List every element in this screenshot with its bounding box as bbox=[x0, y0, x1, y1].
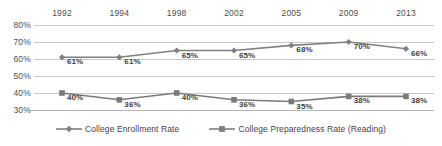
legend-item[interactable]: College Enrollment Rate bbox=[56, 124, 179, 134]
square-marker-icon bbox=[209, 124, 235, 134]
x-axis-tick-label: 2005 bbox=[281, 8, 301, 18]
x-axis-tick-label: 1998 bbox=[167, 8, 187, 18]
diamond-marker-icon bbox=[174, 47, 180, 53]
x-axis-tick-label: 1992 bbox=[52, 8, 72, 18]
diamond-marker-icon bbox=[59, 54, 65, 60]
legend-item[interactable]: College Preparedness Rate (Reading) bbox=[209, 124, 386, 134]
data-point-label: 61% bbox=[67, 57, 83, 66]
diamond-marker-icon bbox=[288, 42, 294, 48]
data-point-label: 40% bbox=[182, 93, 198, 102]
square-marker-icon bbox=[289, 99, 295, 105]
legend-label: College Preparedness Rate (Reading) bbox=[238, 124, 386, 134]
square-marker-icon bbox=[174, 90, 180, 96]
data-point-label: 36% bbox=[239, 99, 255, 108]
y-axis-tick-label: 80% bbox=[13, 20, 31, 30]
square-marker-icon bbox=[231, 97, 237, 103]
chart-legend: College Enrollment RateCollege Preparedn… bbox=[0, 124, 442, 134]
x-axis-tick-label: 2002 bbox=[224, 8, 244, 18]
square-marker-icon bbox=[59, 90, 65, 96]
square-marker-icon bbox=[117, 97, 123, 103]
line-chart: 1992199419982002200520092013 80%70%60%50… bbox=[0, 0, 442, 146]
diamond-marker-icon bbox=[56, 124, 82, 134]
y-axis-tick-label: 60% bbox=[13, 54, 31, 64]
diamond-marker-icon bbox=[116, 54, 122, 60]
x-axis-tick-label: 2009 bbox=[339, 8, 359, 18]
data-point-label: 35% bbox=[296, 101, 312, 110]
y-axis-tick-label: 40% bbox=[13, 88, 31, 98]
diamond-marker-icon bbox=[231, 47, 237, 53]
y-axis-tick-label: 70% bbox=[13, 37, 31, 47]
diamond-marker-icon bbox=[403, 46, 409, 52]
diamond-marker-icon bbox=[346, 39, 352, 45]
square-marker-icon bbox=[403, 94, 409, 100]
data-point-label: 65% bbox=[182, 50, 198, 59]
x-axis-labels: 1992199419982002200520092013 bbox=[0, 8, 442, 24]
data-point-label: 36% bbox=[124, 99, 140, 108]
data-point-label: 65% bbox=[239, 50, 255, 59]
series-lines bbox=[34, 25, 434, 110]
data-point-label: 68% bbox=[296, 45, 312, 54]
bottom-axis-line bbox=[26, 110, 434, 111]
x-axis-tick-label: 1994 bbox=[109, 8, 129, 18]
data-point-label: 61% bbox=[124, 57, 140, 66]
x-axis-tick-label: 2013 bbox=[396, 8, 416, 18]
data-point-label: 66% bbox=[411, 48, 427, 57]
data-point-label: 38% bbox=[354, 96, 370, 105]
legend-label: College Enrollment Rate bbox=[85, 124, 179, 134]
data-point-label: 40% bbox=[67, 93, 83, 102]
data-point-label: 70% bbox=[354, 42, 370, 51]
y-axis-tick-label: 50% bbox=[13, 71, 31, 81]
plot-area: 61%61%65%65%68%70%66%40%36%40%36%35%38%3… bbox=[34, 25, 434, 110]
square-marker-icon bbox=[346, 94, 352, 100]
data-point-label: 38% bbox=[411, 96, 427, 105]
